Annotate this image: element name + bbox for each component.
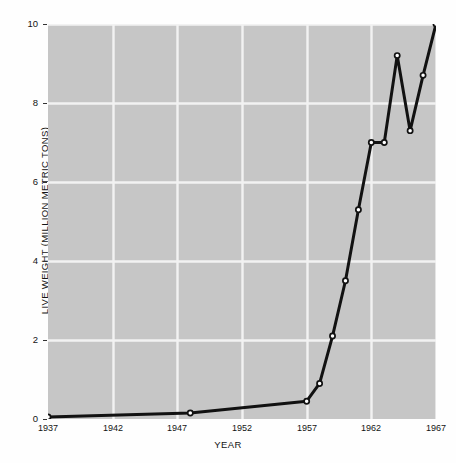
y-tick-mark-6 xyxy=(43,182,47,183)
plot-area xyxy=(48,24,436,419)
y-tick-label-10: 10 xyxy=(12,18,38,29)
y-tick-mark-4 xyxy=(43,261,47,262)
y-tick-label-8: 8 xyxy=(12,97,38,108)
data-point-marker xyxy=(382,140,387,145)
y-tick-label-2: 2 xyxy=(12,334,38,345)
data-point-marker xyxy=(317,381,322,386)
y-tick-label-4: 4 xyxy=(12,255,38,266)
x-tick-label-1952: 1952 xyxy=(217,423,267,433)
data-point-marker xyxy=(369,140,374,145)
data-point-marker xyxy=(356,207,361,212)
y-tick-mark-10 xyxy=(43,24,47,25)
y-tick-mark-8 xyxy=(43,103,47,104)
y-tick-mark-2 xyxy=(43,340,47,341)
data-point-marker xyxy=(420,73,425,78)
x-tick-label-1942: 1942 xyxy=(88,423,138,433)
y-tick-label-6: 6 xyxy=(12,176,38,187)
x-tick-label-1962: 1962 xyxy=(346,423,396,433)
data-point-marker xyxy=(330,333,335,338)
x-tick-label-1947: 1947 xyxy=(152,423,202,433)
data-point-marker xyxy=(395,53,400,58)
chart-figure: LIVE WEIGHT (MILLION METRIC TONS) YEAR 1… xyxy=(0,0,456,463)
data-point-marker xyxy=(48,414,51,419)
page-caption xyxy=(0,456,456,463)
x-tick-label-1967: 1967 xyxy=(411,423,456,433)
x-tick-label-1937: 1937 xyxy=(23,423,73,433)
data-point-marker xyxy=(433,24,436,27)
y-tick-mark-0 xyxy=(43,419,47,420)
series-line-chart xyxy=(48,24,436,419)
data-point-marker xyxy=(343,278,348,283)
x-axis-label: YEAR xyxy=(0,439,456,450)
data-point-marker xyxy=(408,128,413,133)
data-point-marker xyxy=(188,410,193,415)
data-point-marker xyxy=(304,399,309,404)
grid-lines xyxy=(48,24,436,419)
x-tick-label-1957: 1957 xyxy=(282,423,332,433)
